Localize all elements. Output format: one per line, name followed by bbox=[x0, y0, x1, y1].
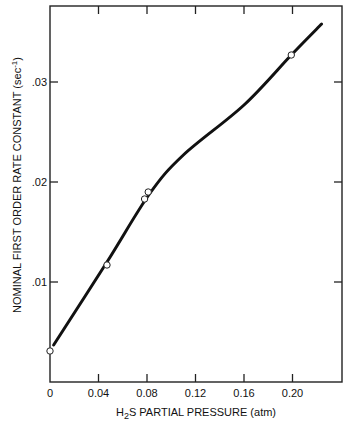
y-tick-label: .03 bbox=[32, 76, 47, 88]
data-point-marker bbox=[288, 52, 294, 58]
data-point-marker bbox=[104, 262, 110, 268]
data-point-marker bbox=[145, 189, 151, 195]
y-tick-label: .01 bbox=[32, 276, 47, 288]
x-tick-label: 0.20 bbox=[282, 387, 303, 399]
y-axis-label: NOMINAL FIRST ORDER RATE CONSTANT (sec-1… bbox=[10, 57, 23, 313]
data-point-marker bbox=[47, 348, 53, 354]
x-axis-ticks: 00.040.080.120.160.20 bbox=[47, 6, 303, 399]
x-tick-label: 0 bbox=[47, 387, 53, 399]
data-point-marker bbox=[141, 196, 147, 202]
data-points bbox=[47, 52, 295, 354]
x-tick-label: 0.12 bbox=[185, 387, 206, 399]
plot-frame bbox=[50, 6, 342, 382]
x-tick-label: 0.04 bbox=[88, 387, 109, 399]
y-tick-label: .02 bbox=[32, 176, 47, 188]
chart: 00.040.080.120.160.20 .01.02.03 H2S PART… bbox=[0, 0, 349, 432]
x-axis-label: H2S PARTIAL PRESSURE (atm) bbox=[116, 406, 276, 421]
x-tick-label: 0.08 bbox=[136, 387, 157, 399]
fitted-curve bbox=[54, 24, 322, 345]
x-tick-label: 0.16 bbox=[233, 387, 254, 399]
y-axis-ticks: .01.02.03 bbox=[32, 76, 342, 288]
